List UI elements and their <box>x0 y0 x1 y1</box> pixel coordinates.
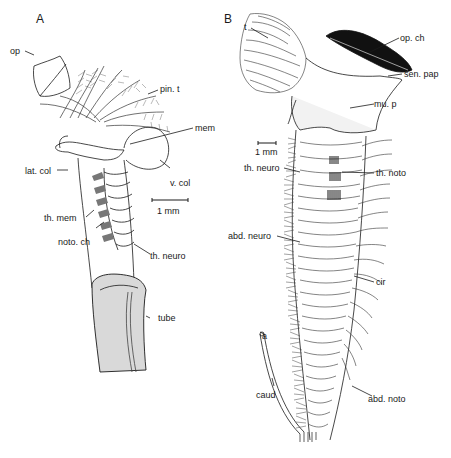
label-caud: caud <box>256 390 276 400</box>
label-t: t <box>244 22 247 32</box>
label-th-noto: th. noto <box>376 168 406 178</box>
label-cir: cir <box>376 277 386 287</box>
label-mem: mem <box>195 123 215 133</box>
scale-bar-a-label: 1 mm <box>157 206 180 216</box>
label-lat-col: lat. col <box>25 166 51 176</box>
label-abd-neuro: abd. neuro <box>228 231 271 241</box>
panel-a-letter: A <box>36 12 44 26</box>
label-sen-pap: sen. pap <box>404 69 439 79</box>
label-pin-t: pin. t <box>160 84 180 94</box>
panel-b-letter: B <box>224 12 232 26</box>
figure-drawing <box>0 0 451 458</box>
label-noto-ch: noto. ch <box>58 237 90 247</box>
label-v-col: v. col <box>170 178 190 188</box>
label-a: a <box>262 331 267 341</box>
anatomical-figure: A op pin. t mem lat. col v. col 1 mm th.… <box>0 0 451 458</box>
label-th-mem: th. mem <box>44 213 77 223</box>
label-tube: tube <box>158 313 176 323</box>
label-abd-noto: abd. noto <box>368 394 406 404</box>
label-mu-p: mu. p <box>374 99 397 109</box>
label-op: op <box>10 46 20 56</box>
label-op-ch: op. ch <box>400 33 425 43</box>
scale-bar-b-label: 1 mm <box>255 147 278 157</box>
label-th-neuro-b: th. neuro <box>244 163 280 173</box>
label-th-neuro-a: th. neuro <box>150 251 186 261</box>
